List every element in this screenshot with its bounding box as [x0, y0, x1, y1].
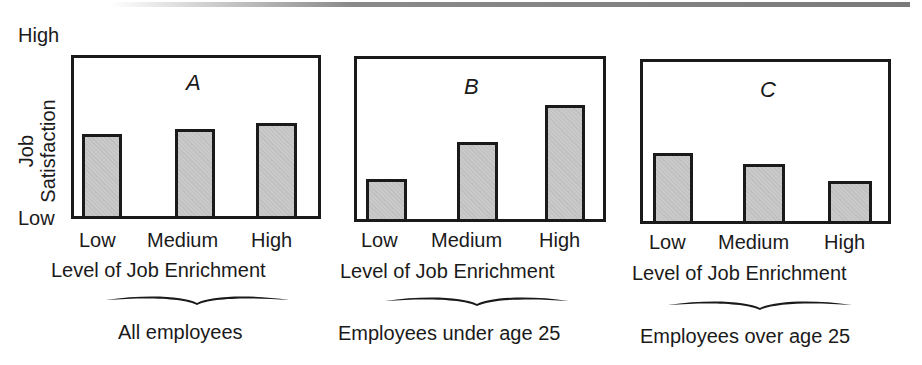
top-rule [110, 2, 910, 7]
x-label-a-high: High [251, 229, 292, 251]
x-label-c-high: High [824, 231, 865, 253]
y-axis-title: Job Satisfaction [15, 86, 59, 216]
x-label-b-medium: Medium [431, 229, 502, 251]
bar-b-high [545, 105, 585, 219]
brace-icon [384, 294, 570, 308]
chart-panel-a: A [71, 55, 321, 219]
x-label-c-low: Low [649, 231, 686, 253]
panel-title-a: A [186, 72, 201, 94]
group-label-a: All employees [118, 321, 243, 343]
group-label-b: Employees under age 25 [338, 322, 560, 344]
bar-a-high [256, 123, 297, 216]
x-label-b-high: High [539, 229, 580, 251]
y-axis-low-label: Low [18, 208, 55, 228]
panel-title-b: B [464, 76, 479, 98]
x-label-a-low: Low [79, 229, 116, 251]
brace-icon [105, 293, 290, 307]
y-axis-high-label: High [18, 25, 59, 45]
panel-title-c: C [760, 79, 776, 101]
bar-c-high [828, 181, 872, 221]
bar-b-low [366, 179, 407, 219]
x-label-c-medium: Medium [718, 231, 789, 253]
chart-panel-c: C [640, 59, 891, 224]
bar-c-low [653, 153, 693, 221]
bar-b-medium [457, 142, 498, 219]
x-axis-title-a: Level of Job Enrichment [51, 259, 266, 281]
bar-a-low [82, 134, 122, 216]
x-label-a-medium: Medium [147, 229, 218, 251]
group-label-c: Employees over age 25 [640, 325, 850, 347]
x-axis-title-b: Level of Job Enrichment [340, 260, 555, 282]
bar-c-medium [743, 164, 785, 221]
brace-icon [667, 298, 853, 312]
x-axis-title-c: Level of Job Enrichment [632, 262, 847, 284]
x-label-b-low: Low [361, 229, 398, 251]
bar-a-medium [175, 129, 215, 216]
chart-panel-b: B [354, 56, 606, 222]
